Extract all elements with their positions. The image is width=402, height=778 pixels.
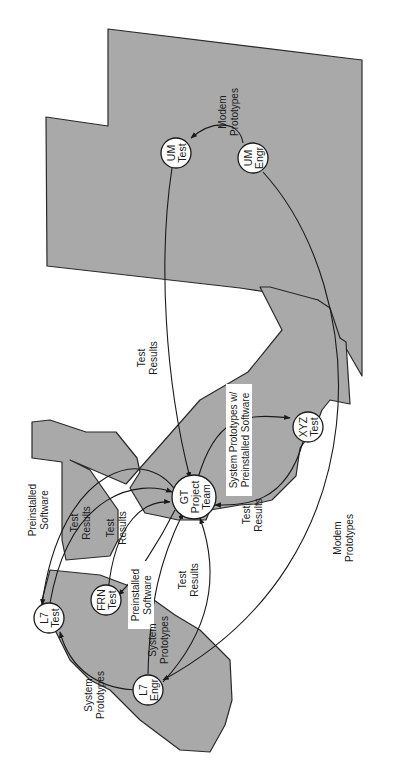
label-preinstalled-software-l7: Preinstalled Software <box>25 476 51 544</box>
svg-text:Preinstalled: Preinstalled <box>27 484 38 536</box>
svg-text:Prototypes: Prototypes <box>344 514 355 562</box>
svg-text:Preinstalled Software: Preinstalled Software <box>240 392 251 487</box>
svg-text:Test: Test <box>69 514 80 533</box>
node-l7-engr[interactable]: L7 Engr <box>133 675 163 705</box>
node-l7-test[interactable]: L7 Test <box>34 603 64 633</box>
svg-text:Modem: Modem <box>332 521 343 554</box>
svg-text:Results: Results <box>117 511 128 544</box>
node-gt-project-team[interactable]: GT Project Team <box>172 475 216 519</box>
node-xyz-test[interactable]: XYZ Test <box>293 412 323 442</box>
svg-text:System Prototypes w/: System Prototypes w/ <box>228 391 239 488</box>
svg-text:Prototypes: Prototypes <box>159 616 170 664</box>
svg-text:Engr: Engr <box>148 678 160 701</box>
svg-text:Software: Software <box>142 575 153 615</box>
label-system-prototypes-l7test: System Prototypes <box>83 671 106 719</box>
svg-text:Results: Results <box>253 498 264 531</box>
svg-text:Test: Test <box>49 608 61 627</box>
svg-text:Test: Test <box>308 417 320 436</box>
svg-text:Modem: Modem <box>217 95 228 128</box>
svg-text:System: System <box>147 623 158 656</box>
svg-text:Test: Test <box>106 590 118 609</box>
diagram-canvas: Modem Prototypes Test Results System Pro… <box>0 0 402 778</box>
node-frn-test[interactable]: FRN Test <box>91 585 121 615</box>
svg-text:Test: Test <box>177 571 188 590</box>
label-preinstalled-software-frn: Preinstalled Software <box>128 561 154 629</box>
svg-text:Test: Test <box>105 519 116 538</box>
svg-text:Preinstalled: Preinstalled <box>130 569 141 621</box>
svg-text:Prototypes: Prototypes <box>229 88 240 136</box>
svg-text:Team: Team <box>200 484 212 510</box>
svg-text:Results: Results <box>81 506 92 539</box>
label-modem-prototypes-l7: Modem Prototypes <box>332 514 355 562</box>
node-um-engr[interactable]: UM Engr <box>238 143 268 173</box>
svg-text:Engr: Engr <box>253 146 265 169</box>
node-um-test[interactable]: UM Test <box>161 138 191 168</box>
svg-text:Test: Test <box>136 349 147 368</box>
svg-text:Test: Test <box>176 143 188 162</box>
svg-text:Prototypes: Prototypes <box>95 671 106 719</box>
svg-text:Results: Results <box>189 563 200 596</box>
svg-text:Results: Results <box>148 341 159 374</box>
svg-text:System: System <box>83 678 94 711</box>
svg-text:Software: Software <box>39 490 50 530</box>
label-test-results-um: Test Results <box>136 341 159 374</box>
regions <box>32 29 362 752</box>
svg-text:Test: Test <box>241 506 252 525</box>
label-test-results-l7engr: Test Results <box>177 563 200 596</box>
label-system-prototypes-xyz: System Prototypes w/ Preinstalled Softwa… <box>226 384 252 496</box>
